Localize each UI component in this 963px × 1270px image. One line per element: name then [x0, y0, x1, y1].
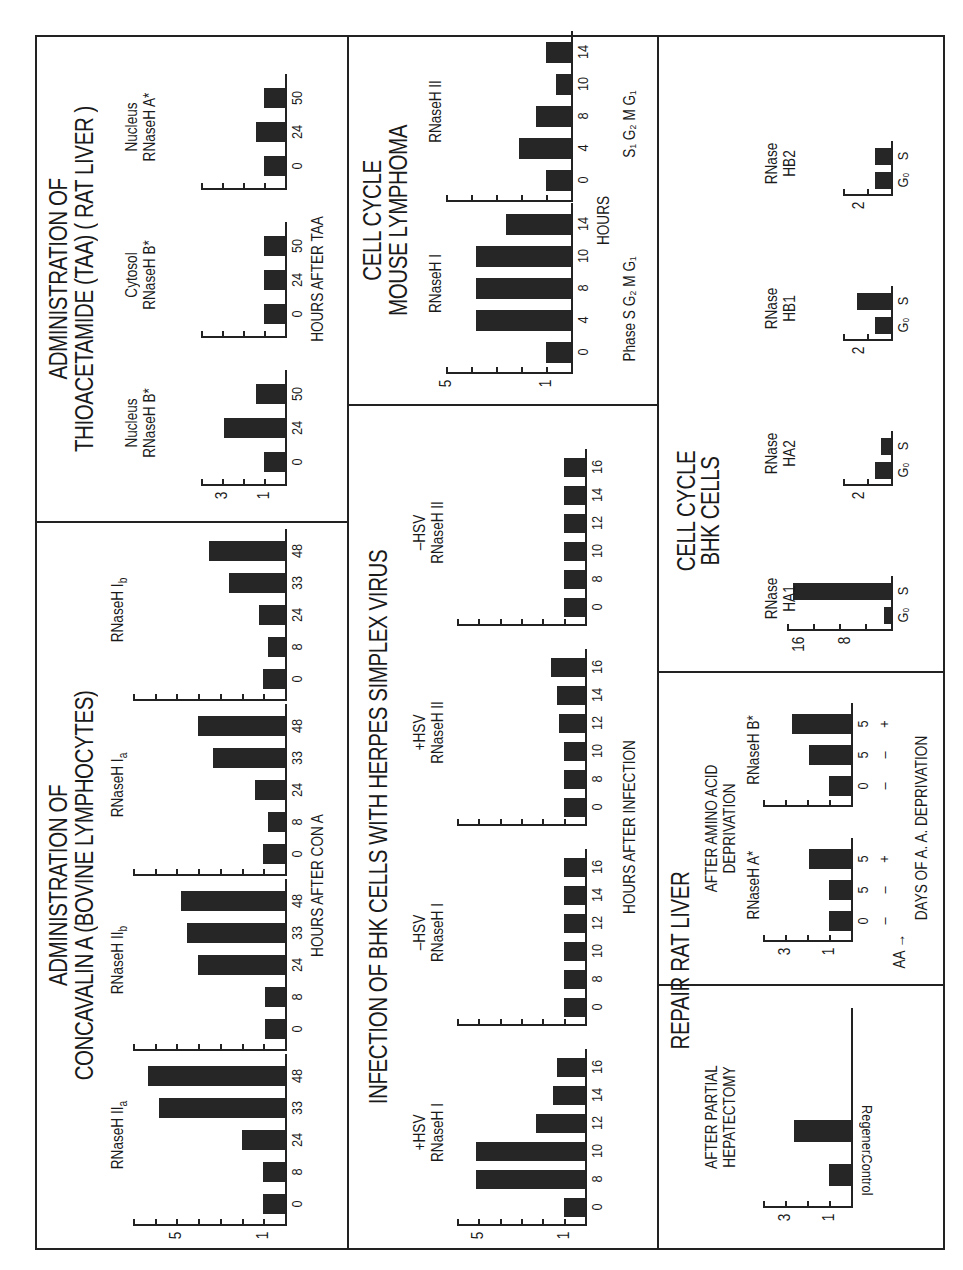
- y-tick: [176, 1219, 178, 1226]
- bar: [198, 716, 285, 736]
- bar: [263, 844, 285, 864]
- bar: [264, 452, 285, 472]
- y-tick: [867, 189, 869, 196]
- bar: [556, 74, 571, 95]
- y-tick: [521, 367, 523, 374]
- y-tick: [839, 624, 841, 631]
- x-axis-title: DAYS OF A. A. DEPRIVATION: [913, 705, 931, 952]
- x-tick-label: 4: [574, 136, 591, 162]
- bar: [875, 172, 891, 189]
- y-tick: [542, 819, 544, 826]
- y-tick: [785, 935, 787, 942]
- chart-label: RNaseH B*: [141, 374, 158, 473]
- y-tick: [264, 331, 266, 338]
- y-tick: [787, 624, 789, 631]
- y-tick: [222, 183, 224, 190]
- x-tick-label: 33: [288, 920, 305, 946]
- chart-label: HB1: [781, 285, 798, 332]
- aa-sign: –: [875, 773, 892, 799]
- chart-label: RNaseH II: [429, 657, 446, 807]
- y-tick-label: 1: [254, 1232, 272, 1251]
- chart-label: +HSV: [411, 1057, 428, 1207]
- x-tick-label: 24: [288, 415, 305, 441]
- y-tick: [829, 800, 831, 807]
- x-tick-label: 8: [588, 1167, 605, 1193]
- aa-row-label: AA →: [891, 918, 909, 969]
- x-tick-label: 14: [588, 483, 605, 509]
- x-axis: [891, 286, 893, 341]
- bar: [564, 598, 585, 617]
- x-tick-label: 0: [288, 301, 305, 327]
- panel-title: REPAIR RAT LIVER: [667, 725, 694, 1197]
- y-tick: [843, 189, 845, 196]
- phase-label: Phase S G₂ M G₁: [621, 228, 639, 390]
- y-tick-label: 5: [469, 1232, 487, 1251]
- x-tick-label: S: [894, 434, 911, 460]
- y-tick: [264, 183, 266, 190]
- y-tick: [457, 819, 459, 826]
- chart-label: –HSV: [411, 457, 428, 607]
- bar: [264, 304, 285, 324]
- bar: [224, 418, 285, 438]
- y-tick: [471, 367, 473, 374]
- x-tick-label: 8: [588, 967, 605, 993]
- bar: [256, 122, 285, 142]
- bar: [229, 573, 285, 593]
- bar: [564, 942, 585, 961]
- chart-label: RNaseH I: [429, 1057, 446, 1207]
- x-tick-label: 10: [588, 739, 605, 765]
- bar: [557, 1058, 585, 1077]
- x-tick-label: 16: [588, 455, 605, 481]
- bar: [546, 170, 571, 191]
- y-tick: [500, 619, 502, 626]
- y-tick: [564, 819, 566, 826]
- y-tick: [471, 195, 473, 202]
- y-tick: [201, 479, 203, 486]
- y-tick: [521, 819, 523, 826]
- x-tick-label: 8: [288, 984, 305, 1010]
- y-tick: [222, 479, 224, 486]
- figure-frame: ADMINISTRATION OF CONCAVALIN A (BOVINE L…: [35, 35, 945, 1250]
- chart-label: RNase: [763, 140, 780, 187]
- chart-label: RNaseH B*: [745, 706, 762, 794]
- y-tick-label: 1: [555, 1232, 573, 1251]
- bar: [794, 1120, 851, 1142]
- bar: [519, 138, 572, 159]
- y-tick: [198, 694, 200, 701]
- x-tick-label: S: [894, 289, 911, 315]
- x-axis: [285, 74, 287, 190]
- y-tick: [220, 1219, 222, 1226]
- x-tick-label: 50: [288, 381, 305, 407]
- x-axis: [285, 529, 287, 701]
- chart-label: RNaseH Ib: [109, 537, 132, 683]
- bar: [875, 148, 891, 165]
- chart-label: RNaseH IIa: [109, 1062, 132, 1208]
- y-tick-label: 2: [850, 492, 868, 511]
- x-tick-label: 0: [588, 595, 605, 621]
- bar: [264, 156, 285, 176]
- chart-label: RNaseH A*: [745, 841, 762, 929]
- x-tick-label: 50: [288, 233, 305, 259]
- y-tick: [546, 195, 548, 202]
- y-tick: [521, 1219, 523, 1226]
- bar: [564, 798, 585, 817]
- y-tick: [220, 1044, 222, 1051]
- y-tick: [763, 1201, 765, 1208]
- x-tick-label: 48: [288, 713, 305, 739]
- bar: [564, 458, 585, 477]
- chart-label: +HSV: [411, 657, 428, 807]
- x-tick-label: 12: [588, 911, 605, 937]
- x-tick-label: 0: [288, 666, 305, 692]
- chart-label: RNaseH II: [427, 39, 444, 184]
- x-tick-label: 0: [588, 1195, 605, 1221]
- panel-title: THIOACETAMIDE (TAA) ( RAT LIVER ): [71, 81, 98, 478]
- subpanel-title: HEPATECTOMY: [721, 1006, 739, 1229]
- y-tick: [446, 367, 448, 374]
- chart-label: RNaseH I: [427, 211, 444, 356]
- y-tick-label: 1: [255, 492, 273, 511]
- y-tick: [542, 619, 544, 626]
- bar: [476, 278, 571, 299]
- bar: [256, 384, 285, 404]
- bar: [881, 438, 891, 455]
- y-tick: [176, 1044, 178, 1051]
